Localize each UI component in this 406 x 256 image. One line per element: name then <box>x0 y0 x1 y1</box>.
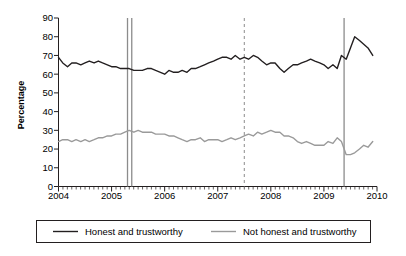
y-tick-label-40: 40 <box>42 106 53 117</box>
reference-vlines <box>128 18 345 187</box>
x-tick-label-2004: 2004 <box>48 190 69 201</box>
chart-figure: Percentage 0102030405060708090 200420052… <box>0 0 406 256</box>
y-tick-label-30: 30 <box>42 125 53 136</box>
y-tick-label-80: 80 <box>42 31 53 42</box>
y-axis-title: Percentage <box>16 81 26 130</box>
y-axis-tick-labels: 0102030405060708090 <box>42 12 53 192</box>
x-tick-label-2008: 2008 <box>260 190 281 201</box>
line-chart-svg: Percentage 0102030405060708090 200420052… <box>0 0 406 256</box>
series-line-honest <box>59 37 373 74</box>
legend-label-honest: Honest and trustworthy <box>85 226 183 237</box>
x-tick-label-2010: 2010 <box>366 190 387 201</box>
y-tick-label-50: 50 <box>42 87 53 98</box>
legend-box: Honest and trustworthy Not honest and tr… <box>37 221 371 243</box>
legend-label-not-honest: Not honest and trustworthy <box>243 226 357 237</box>
y-tick-label-70: 70 <box>42 50 53 61</box>
x-tick-label-2006: 2006 <box>154 190 175 201</box>
y-tick-label-20: 20 <box>42 143 53 154</box>
y-tick-label-60: 60 <box>42 69 53 80</box>
y-tick-label-90: 90 <box>42 12 53 23</box>
x-tick-label-2005: 2005 <box>101 190 122 201</box>
y-axis-title-group: Percentage <box>16 81 26 130</box>
y-tick-label-10: 10 <box>42 162 53 173</box>
x-tick-label-2007: 2007 <box>207 190 228 201</box>
series-lines <box>59 37 373 155</box>
x-axis-tick-labels: 2004200520062007200820092010 <box>48 190 388 201</box>
y-axis-tick-marks <box>54 18 59 187</box>
x-tick-label-2009: 2009 <box>313 190 334 201</box>
series-line-not-honest <box>59 130 373 154</box>
